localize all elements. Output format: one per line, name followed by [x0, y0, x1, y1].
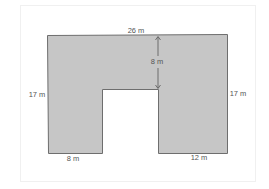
u-shape [48, 35, 228, 154]
bottom-right-width-label: 12 m [191, 154, 208, 162]
bottom-left-width-label: 8 m [67, 155, 80, 163]
top-width-label: 26 m [128, 27, 145, 35]
right-height-label: 17 m [230, 90, 247, 98]
notch-depth-label: 8 m [151, 58, 164, 66]
left-height-label: 17 m [29, 91, 46, 99]
